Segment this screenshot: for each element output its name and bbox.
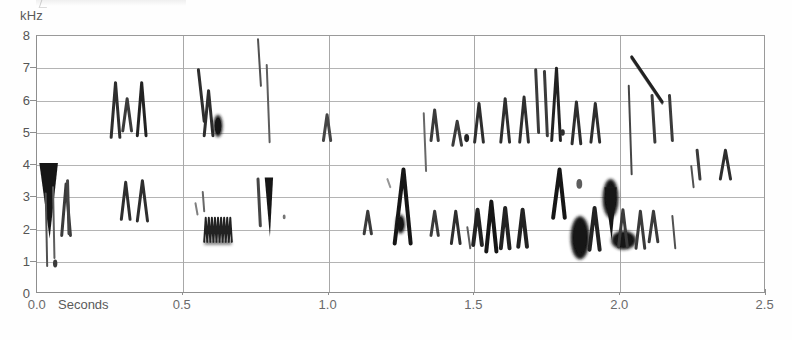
vee xyxy=(111,83,120,138)
vee xyxy=(591,104,600,143)
vee xyxy=(486,202,496,252)
trace-vee-40 xyxy=(518,210,527,247)
x-tick-label-2.0: 2.0 xyxy=(610,297,628,312)
trace-wedge-0 xyxy=(39,163,58,239)
blob xyxy=(396,214,405,233)
gridline-y-6 xyxy=(37,101,764,102)
stroke xyxy=(387,179,390,187)
trace-vee-6 xyxy=(111,83,120,138)
trace-stroke-19 xyxy=(258,179,260,226)
trace-vee-37 xyxy=(501,99,510,142)
stroke xyxy=(424,113,426,171)
blob-core xyxy=(573,222,587,253)
trace-vee-12 xyxy=(204,91,213,136)
blob xyxy=(611,231,636,250)
trace-vee-38 xyxy=(501,208,510,248)
stroke xyxy=(672,216,675,248)
trace-blob-47 xyxy=(571,216,590,259)
trace-vee-10 xyxy=(137,181,147,221)
trace-vee-46 xyxy=(572,102,581,144)
gridline-y-2 xyxy=(37,230,764,231)
trace-vee-34 xyxy=(475,104,484,143)
wedge xyxy=(265,178,273,237)
vee xyxy=(501,99,510,142)
vee xyxy=(649,211,658,242)
gridline-y-4 xyxy=(37,165,764,166)
vee xyxy=(137,83,146,136)
trace-blob-26 xyxy=(396,214,405,233)
trace-vee-59 xyxy=(649,211,658,242)
gridline-x-1 xyxy=(329,36,330,292)
vee xyxy=(137,181,147,221)
y-axis-unit-label: kHz xyxy=(20,8,43,23)
trace-stroke-61 xyxy=(672,216,675,248)
stroke xyxy=(68,181,69,234)
gridline-x-1.5 xyxy=(474,36,475,292)
blob xyxy=(214,115,223,138)
dot xyxy=(283,214,286,219)
trace-wedge-52 xyxy=(604,187,616,240)
y-tick-label-7: 7 xyxy=(12,60,30,75)
gridline-y-7 xyxy=(37,68,764,69)
stroke xyxy=(691,166,693,187)
trace-stroke-24 xyxy=(387,179,390,187)
stroke xyxy=(652,95,655,142)
dot xyxy=(464,134,469,142)
stroke xyxy=(198,70,204,121)
trace-stroke-27 xyxy=(424,113,426,171)
vee xyxy=(518,210,527,247)
trace-vee-36 xyxy=(486,202,496,252)
x-tick-label-2.5: 2.5 xyxy=(756,297,774,312)
vee xyxy=(431,110,438,141)
wedge xyxy=(39,163,58,239)
stroke xyxy=(258,39,261,86)
peak xyxy=(395,169,411,243)
blob xyxy=(571,216,590,259)
vee xyxy=(572,102,581,144)
stroke xyxy=(632,57,663,102)
trace-blob-51 xyxy=(603,179,619,218)
vee xyxy=(121,182,130,219)
x-tick-label-1.0: 1.0 xyxy=(319,297,337,312)
spectrogram-figure: kHz 876543210 0.00.51.01.52.02.5 Seconds xyxy=(0,0,792,340)
trace-stroke-15 xyxy=(203,192,204,211)
trace-wedge-20 xyxy=(265,178,273,237)
gridline-y-5 xyxy=(37,133,764,134)
x-tick-mark-2.5 xyxy=(765,289,766,295)
trace-peak-43 xyxy=(552,68,561,140)
trace-vee-3 xyxy=(62,184,71,235)
trace-stroke-16 xyxy=(195,203,197,214)
vee xyxy=(62,184,71,235)
stroke xyxy=(195,203,197,214)
x-axis-unit-label: Seconds xyxy=(58,297,109,312)
trill-base xyxy=(204,241,232,245)
gridline-y-3 xyxy=(37,197,764,198)
dot xyxy=(53,260,57,268)
stroke xyxy=(203,192,204,211)
trace-peak-44 xyxy=(553,169,565,217)
blob-core xyxy=(615,233,633,247)
vee xyxy=(501,208,510,248)
trace-stroke-42 xyxy=(544,71,547,135)
trace-dot-48 xyxy=(576,179,582,189)
trace-stroke-11 xyxy=(198,70,204,121)
y-tick-label-3: 3 xyxy=(12,189,30,204)
trace-vee-49 xyxy=(591,104,600,143)
trace-blob-13 xyxy=(214,115,223,138)
trace-vee-31 xyxy=(451,211,460,243)
trace-dot-5 xyxy=(53,260,57,268)
vee xyxy=(451,211,460,243)
y-tick-label-5: 5 xyxy=(12,124,30,139)
trace-dot-32 xyxy=(464,134,469,142)
blob-core xyxy=(215,118,221,134)
x-tick-label-0.5: 0.5 xyxy=(173,297,191,312)
trace-trill-14 xyxy=(204,218,232,245)
plot-area xyxy=(36,35,765,293)
trace-stroke-17 xyxy=(258,39,261,86)
vee xyxy=(475,104,484,143)
x-tick-label-0.0: 0.0 xyxy=(28,297,46,312)
trace-sweep-54 xyxy=(632,57,663,104)
trace-peak-25 xyxy=(395,169,411,243)
vee xyxy=(520,97,529,142)
peak xyxy=(553,169,565,217)
